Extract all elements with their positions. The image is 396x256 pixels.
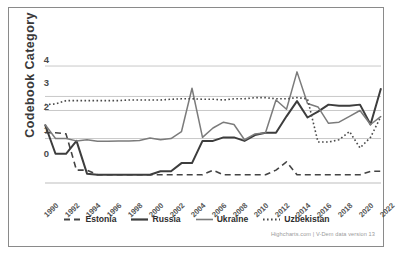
dashed-line-key (64, 216, 81, 223)
legend-label: Estonia (85, 214, 116, 224)
chart-legend: EstoniaRussiaUkraineUzbekistan (9, 214, 385, 224)
solid-thin-line-key (196, 216, 213, 223)
series-line-russia (45, 88, 381, 175)
legend-label: Uzbekistan (284, 214, 329, 224)
legend-item-uzbekistan[interactable]: Uzbekistan (263, 214, 329, 224)
chart-frame: Codebook Category 43210 1990199219941996… (8, 7, 384, 247)
legend-label: Russia (152, 214, 180, 224)
chart-credits: Highcharts.com | V-Dem data version 13 (271, 231, 375, 237)
series-lines (45, 72, 381, 175)
solid-bold-line-key (131, 216, 148, 223)
legend-item-ukraine[interactable]: Ukraine (196, 214, 249, 224)
line-chart-plot (9, 8, 385, 248)
legend-item-estonia[interactable]: Estonia (64, 214, 116, 224)
legend-item-russia[interactable]: Russia (131, 214, 180, 224)
legend-label: Ukraine (217, 214, 249, 224)
series-line-ukraine (45, 72, 381, 141)
dotted-line-key (263, 216, 280, 223)
